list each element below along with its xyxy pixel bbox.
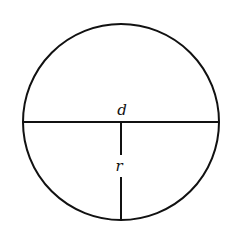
diameter-label: d: [117, 101, 127, 119]
circle-diagram: d r: [0, 0, 237, 234]
radius-label: r: [115, 157, 123, 175]
